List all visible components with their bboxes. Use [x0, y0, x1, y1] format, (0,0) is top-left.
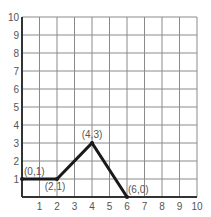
- x-tick-label: 6: [124, 201, 130, 212]
- x-tick-label: 8: [159, 201, 165, 212]
- data-point: [20, 177, 24, 181]
- x-tick-label: 10: [191, 201, 203, 212]
- point-label: (4,3): [82, 129, 103, 140]
- x-tick-label: 2: [54, 201, 60, 212]
- line-chart: 12345678910 12345678910 (0,1)(2,1)(4,3)(…: [0, 0, 211, 217]
- x-tick-label: 3: [72, 201, 78, 212]
- x-tick-label: 5: [107, 201, 113, 212]
- y-tick-label: 3: [13, 138, 19, 149]
- y-tick-label: 8: [13, 48, 19, 59]
- point-annotations: (0,1)(2,1)(4,3)(6,0): [24, 129, 149, 195]
- point-label: (2,1): [45, 181, 66, 192]
- data-point: [125, 195, 129, 199]
- x-tick-label: 4: [89, 201, 95, 212]
- y-tick-label: 2: [13, 156, 19, 167]
- data-point: [90, 141, 94, 145]
- y-tick-label: 10: [8, 12, 20, 23]
- point-label: (6,0): [128, 184, 149, 195]
- x-tick-label: 9: [177, 201, 183, 212]
- y-tick-label: 5: [13, 102, 19, 113]
- y-tick-label: 1: [13, 174, 19, 185]
- y-tick-label: 4: [13, 120, 19, 131]
- x-tick-label: 7: [142, 201, 148, 212]
- point-label: (0,1): [24, 166, 45, 177]
- y-tick-label: 7: [13, 66, 19, 77]
- x-axis-ticks: 12345678910: [37, 201, 203, 212]
- y-tick-label: 6: [13, 84, 19, 95]
- y-tick-label: 9: [13, 30, 19, 41]
- x-tick-label: 1: [37, 201, 43, 212]
- y-axis-ticks: 12345678910: [8, 12, 20, 185]
